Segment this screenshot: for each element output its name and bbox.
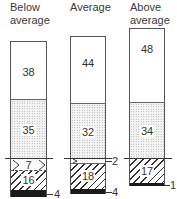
reference-line — [5, 158, 53, 159]
leader-line — [47, 194, 53, 195]
segment-white: 48 — [129, 28, 165, 102]
segment-dotted: 32 — [70, 103, 106, 158]
bar-above-average: 48 34 17 — [129, 28, 165, 186]
side-label: 4 — [54, 188, 60, 199]
header-below-average: Below average — [10, 1, 50, 27]
value-text: 34 — [140, 125, 154, 137]
side-label: 2 — [112, 155, 118, 167]
reference-line — [124, 158, 172, 159]
value-label: 48 — [130, 43, 164, 55]
side-label: 4 — [112, 186, 118, 198]
segment-white: 38 — [10, 41, 47, 99]
segment-diagonal: 16 — [10, 170, 47, 190]
bar-average: 44 32 18 — [70, 36, 106, 194]
segment-black — [70, 189, 106, 194]
value-text: 17 — [140, 165, 154, 177]
value-label: 35 — [11, 124, 46, 136]
segment-diagonal: 18 — [70, 163, 106, 189]
value-text: 16 — [21, 174, 35, 186]
reference-line — [64, 158, 112, 159]
value-label: 18 — [71, 170, 105, 182]
value-label: 44 — [71, 57, 105, 69]
segment-dotted: 34 — [129, 102, 165, 158]
value-label: 16 — [11, 174, 46, 186]
value-label: 38 — [11, 66, 46, 78]
value-text: 18 — [81, 170, 95, 182]
header-above-average: Above average — [130, 1, 170, 27]
segment-diagonal: 17 — [129, 158, 165, 183]
segment-black — [129, 183, 165, 186]
header-average: Average — [70, 1, 111, 14]
segment-chevron: 7 — [10, 158, 47, 170]
header-above-line1: Above — [130, 1, 170, 14]
value-text: 35 — [21, 124, 35, 136]
value-text: 32 — [81, 126, 95, 138]
bar-below-average: 38 35 7 16 — [10, 41, 47, 197]
value-label: 32 — [71, 126, 105, 138]
value-label: 17 — [130, 165, 164, 177]
segment-white: 44 — [70, 36, 106, 103]
value-label: 34 — [130, 125, 164, 137]
header-below-line1: Below — [10, 1, 50, 14]
segment-dotted: 35 — [10, 99, 47, 158]
segment-black — [10, 190, 47, 197]
header-average-label: Average — [70, 1, 111, 14]
header-above-line2: average — [130, 14, 170, 27]
header-below-line2: average — [10, 14, 50, 27]
side-label: 1 — [170, 179, 176, 191]
